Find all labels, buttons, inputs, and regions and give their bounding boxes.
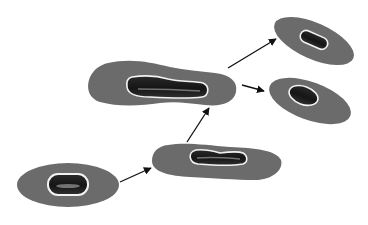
cell-stage-5 — [263, 68, 357, 133]
arrow-1-to-2 — [120, 168, 151, 182]
cell-1-nucleus-highlight — [56, 184, 80, 188]
arrow-2-to-3 — [187, 108, 209, 142]
arrow-3-to-5 — [242, 85, 264, 91]
cell-stage-1 — [17, 163, 119, 207]
cell-stage-2 — [152, 144, 281, 180]
cell-division-diagram — [0, 0, 368, 225]
cell-stage-4 — [267, 7, 360, 75]
cell-stage-3 — [88, 61, 236, 106]
arrow-3-to-4 — [228, 39, 276, 68]
